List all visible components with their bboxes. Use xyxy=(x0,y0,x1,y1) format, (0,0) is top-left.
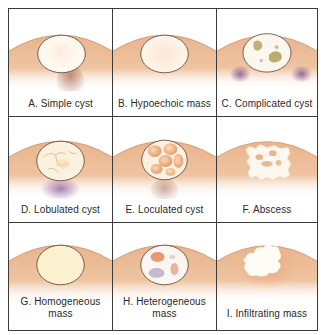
label-line-1: H. Heterogeneous xyxy=(113,296,216,308)
panel-f-abscess: F. Abscess xyxy=(217,117,317,223)
panel-label: D. Lobulated cyst xyxy=(9,204,112,216)
panel-label: C. Complicated cyst xyxy=(217,98,317,110)
panel-d-lobulated-cyst: D. Lobulated cyst xyxy=(9,117,113,223)
lobulated-cyst-illustration xyxy=(9,117,112,199)
panel-b-hypoechoic-mass: B. Hypoechoic mass xyxy=(113,9,217,117)
panel-a-simple-cyst: A. Simple cyst xyxy=(9,9,113,117)
panel-i-infiltrating-mass: I. Infiltrating mass xyxy=(217,223,317,330)
hypoechoic-mass-illustration xyxy=(113,9,216,91)
label-line-2: mass xyxy=(113,308,216,320)
panel-c-complicated-cyst: C. Complicated cyst xyxy=(217,9,317,117)
loculated-cyst-illustration xyxy=(113,117,216,199)
heterogeneous-mass-illustration xyxy=(113,223,216,305)
panel-label: B. Hypoechoic mass xyxy=(113,98,216,110)
panel-h-heterogeneous-mass: H. Heterogeneous mass xyxy=(113,223,217,330)
complicated-cyst-illustration xyxy=(217,9,317,91)
panel-label: A. Simple cyst xyxy=(9,98,112,110)
panel-label: I. Infiltrating mass xyxy=(217,308,317,320)
panel-g-homogeneous-mass: G. Homogeneous mass xyxy=(9,223,113,330)
panel-label: E. Loculated cyst xyxy=(113,204,216,216)
label-line-1: G. Homogeneous xyxy=(9,296,112,308)
panel-e-loculated-cyst: E. Loculated cyst xyxy=(113,117,217,223)
infiltrating-mass-illustration xyxy=(217,223,317,305)
panel-label: F. Abscess xyxy=(217,204,317,216)
panel-label: G. Homogeneous mass xyxy=(9,296,112,320)
lesion-diagram-grid: A. Simple cyst B. Hypoechoic mass xyxy=(8,8,318,331)
abscess-illustration xyxy=(217,117,317,199)
homogeneous-mass-illustration xyxy=(9,223,112,305)
panel-label: H. Heterogeneous mass xyxy=(113,296,216,320)
label-line-2: mass xyxy=(9,308,112,320)
simple-cyst-illustration xyxy=(9,9,112,91)
